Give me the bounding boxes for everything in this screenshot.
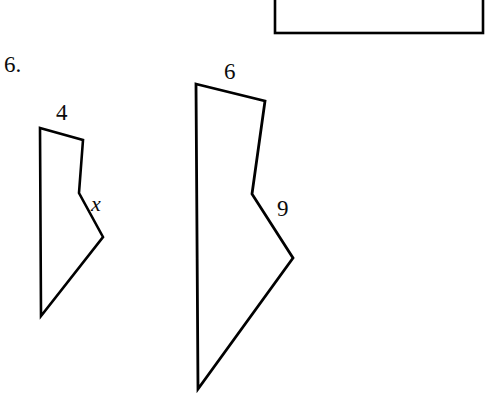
small-polygon-top-side-label: 4: [56, 101, 68, 124]
worksheet-page: 6. 4 x 6 9: [0, 0, 494, 413]
geometry-figure-canvas: [0, 0, 494, 413]
answer-box: [275, 0, 483, 33]
problem-number: 6.: [4, 53, 21, 76]
large-polygon-top-side-label: 6: [224, 60, 236, 83]
small-polygon: [40, 128, 103, 316]
small-polygon-unknown-side-label: x: [91, 193, 101, 215]
large-polygon: [196, 84, 293, 389]
large-polygon-known-side-label: 9: [277, 197, 289, 220]
